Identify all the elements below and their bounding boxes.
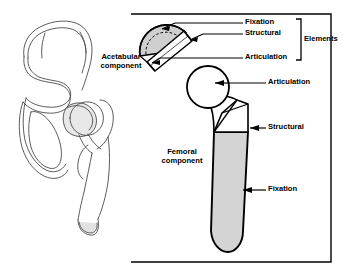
figure-canvas: Fixation Structural Articulation Element…	[0, 0, 344, 273]
diagram-svg	[0, 0, 344, 273]
label-acetabular-articulation: Articulation	[245, 53, 287, 62]
elements-group-bracket	[296, 19, 301, 60]
label-femoral-fixation: Fixation	[268, 185, 297, 194]
label-femoral-structural: Structural	[268, 123, 304, 132]
label-acetabular-structural: Structural	[245, 29, 281, 38]
label-elements-group: Elements	[304, 35, 338, 44]
label-acetabular-fixation: Fixation	[245, 18, 274, 27]
label-acetabular-component: Acetabular component	[94, 53, 148, 70]
label-femoral-component: Femoral component	[155, 148, 209, 165]
label-femoral-articulation: Articulation	[268, 78, 310, 87]
